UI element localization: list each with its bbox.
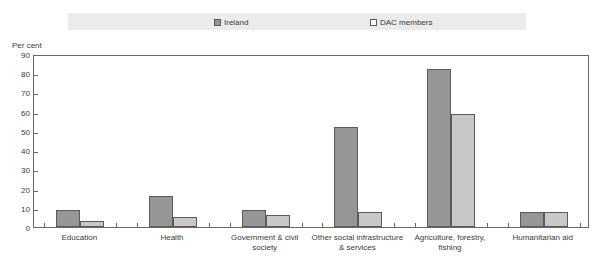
x-axis-tick-mark: [322, 223, 323, 227]
y-axis-tick-mark: [34, 191, 38, 192]
legend-label-dac-members: DAC members: [380, 18, 432, 27]
legend-background-band: [68, 13, 526, 30]
y-axis-tick-label: 10: [21, 206, 30, 214]
y-axis-tick-mark: [34, 152, 38, 153]
legend-item-ireland: Ireland: [214, 16, 248, 28]
x-axis-tick-mark: [44, 223, 45, 227]
bar-dac-members: [173, 217, 197, 227]
y-axis-tick-label: 20: [21, 187, 30, 195]
y-axis-tick-label: 40: [21, 148, 30, 156]
legend-label-ireland: Ireland: [224, 18, 248, 27]
bar-ireland: [242, 210, 266, 227]
bar-chart-figure: Ireland DAC members Per cent 01020304050…: [0, 0, 598, 269]
x-axis-tick-mark: [580, 223, 581, 227]
bar-dac-members: [358, 212, 382, 227]
y-axis-tick-label: 30: [21, 167, 30, 175]
y-axis-title: Per cent: [12, 41, 42, 50]
x-axis-category-label: Agriculture, forestry,fishing: [404, 233, 497, 253]
x-axis-tick-mark: [394, 223, 395, 227]
bar-ireland: [56, 210, 80, 227]
x-axis-tick-mark: [116, 223, 117, 227]
x-axis-tick-mark: [137, 223, 138, 227]
y-axis-tick-label: 90: [21, 52, 30, 60]
legend-swatch-icon-ireland: [214, 19, 221, 26]
x-axis-tick-mark: [415, 223, 416, 227]
legend-item-dac-members: DAC members: [370, 16, 432, 28]
bar-ireland: [520, 212, 544, 227]
x-axis-category-label: Health: [126, 233, 219, 243]
plot-area: 0102030405060708090: [33, 55, 589, 228]
y-axis-tick-label: 60: [21, 110, 30, 118]
x-axis-category-label: Humanitarian aid: [496, 233, 589, 243]
x-axis-tick-mark: [487, 223, 488, 227]
y-axis-tick-label: 50: [21, 129, 30, 137]
y-axis-tick-mark: [34, 171, 38, 172]
y-axis-tick-label: 0: [26, 225, 30, 233]
y-axis-tick-mark: [34, 133, 38, 134]
bar-dac-members: [544, 212, 568, 227]
y-axis-tick-mark: [34, 210, 38, 211]
bar-dac-members: [266, 215, 290, 227]
x-axis-tick-mark: [230, 223, 231, 227]
legend-swatch-icon-dac-members: [370, 19, 377, 26]
y-axis-tick-mark: [34, 75, 38, 76]
x-axis-category-label: Education: [33, 233, 126, 243]
bar-dac-members: [451, 114, 475, 227]
y-axis-tick-label: 70: [21, 90, 30, 98]
bar-dac-members: [80, 221, 104, 227]
y-axis-tick-label: 80: [21, 71, 30, 79]
x-axis-category-label: Other social infrastructure& services: [311, 233, 404, 253]
y-axis-tick-mark: [34, 114, 38, 115]
x-axis-category-label: Government & civil society: [218, 233, 311, 253]
x-axis-tick-mark: [302, 223, 303, 227]
y-axis-tick-mark: [34, 94, 38, 95]
bar-ireland: [149, 196, 173, 227]
x-axis-tick-mark: [508, 223, 509, 227]
x-axis-tick-mark: [209, 223, 210, 227]
bar-ireland: [427, 69, 451, 227]
bar-ireland: [334, 127, 358, 227]
